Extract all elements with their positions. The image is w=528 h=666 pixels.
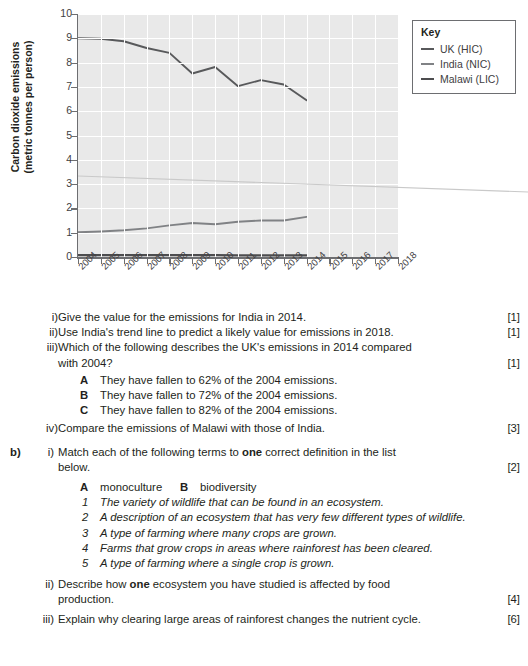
- horizontal-gridline: [78, 14, 398, 15]
- question-b-ii-text-line2: production.: [58, 592, 528, 607]
- emissions-line-chart: Carbon dioxide emissions (metric tonnes …: [0, 6, 528, 306]
- horizontal-gridline: [78, 208, 398, 209]
- definition-text: The variety of wildlife that can be foun…: [100, 496, 384, 508]
- legend-item: India (NIC): [421, 56, 515, 71]
- definition-text: A description of an ecosystem that has v…: [100, 511, 466, 523]
- question-a-iii-option-b[interactable]: B They have fallen to 72% of the 2004 em…: [0, 388, 528, 403]
- horizontal-gridline: [78, 184, 398, 185]
- y-tick-label: 5: [48, 129, 72, 141]
- question-a-iii-option-a[interactable]: A They have fallen to 62% of the 2004 em…: [0, 373, 528, 388]
- horizontal-gridline: [78, 63, 398, 64]
- legend-item-label: Malawi (LIC): [440, 73, 499, 85]
- option-letter: C: [80, 403, 88, 418]
- definition-item: 4 Farms that grow crops in areas where r…: [0, 541, 528, 556]
- horizontal-gridline: [78, 111, 398, 112]
- definition-text: A type of farming where many crops are g…: [100, 527, 337, 539]
- y-tick-label: 10: [48, 7, 72, 19]
- horizontal-gridline: [78, 38, 398, 39]
- y-tick-label: 0: [48, 250, 72, 262]
- y-axis-title-line2: (metric tonnes per person): [22, 40, 34, 173]
- question-a-iii-text-line1: Which of the following describes the UK'…: [58, 340, 528, 355]
- definition-item: 2 A description of an ecosystem that has…: [0, 510, 528, 525]
- legend-title: Key: [421, 26, 515, 38]
- legend-swatch-icon: [421, 78, 434, 80]
- question-b-i-line2: below. [2]: [0, 460, 528, 475]
- y-tick-mark: [71, 136, 78, 137]
- question-numeral: iii): [28, 612, 54, 627]
- y-tick-mark: [71, 87, 78, 88]
- question-b-i: b) i) Match each of the following terms …: [0, 445, 528, 460]
- question-a-iv: iv) Compare the emissions of Malawi with…: [0, 421, 528, 436]
- y-tick-label: 7: [48, 80, 72, 92]
- y-tick-mark: [71, 208, 78, 209]
- marks-badge: [2]: [507, 460, 520, 475]
- question-a-iii-text-line2: with 2004?: [58, 356, 528, 371]
- question-b-i-text-line2: below.: [58, 460, 528, 475]
- y-axis-title: Carbon dioxide emissions (metric tonnes …: [9, 12, 35, 202]
- legend-item: UK (HIC): [421, 41, 515, 56]
- horizontal-gridline: [78, 233, 398, 234]
- legend-items: UK (HIC)India (NIC)Malawi (LIC): [421, 41, 515, 86]
- y-tick-mark: [71, 111, 78, 112]
- plot-area: [78, 14, 398, 257]
- definition-item: 3 A type of farming where many crops are…: [0, 526, 528, 541]
- horizontal-gridline: [78, 160, 398, 161]
- y-tick-mark: [71, 38, 78, 39]
- question-a-i: i) Give the value for the emissions for …: [0, 310, 528, 325]
- term-text-b: biodiversity: [200, 480, 257, 495]
- y-tick-mark: [71, 160, 78, 161]
- term-text-a: monoculture: [100, 481, 162, 493]
- legend-item-label: UK (HIC): [440, 43, 483, 55]
- definition-text: A type of farming where a single crop is…: [100, 557, 334, 569]
- marks-badge: [1]: [507, 356, 520, 371]
- definition-number: 5: [82, 556, 88, 571]
- y-tick-mark: [71, 14, 78, 15]
- question-numeral: i): [36, 310, 58, 325]
- legend-swatch-icon: [421, 63, 434, 65]
- question-numeral: ii): [32, 577, 54, 592]
- horizontal-gridline: [78, 87, 398, 88]
- question-a-iii-option-c[interactable]: C They have fallen to 82% of the 2004 em…: [0, 403, 528, 418]
- y-tick-label: 6: [48, 104, 72, 116]
- y-tick-label: 8: [48, 56, 72, 68]
- legend-item-label: India (NIC): [440, 58, 491, 70]
- definition-number: 1: [82, 495, 88, 510]
- question-b-ii-line2: production. [4]: [0, 592, 528, 607]
- y-tick-label: 3: [48, 177, 72, 189]
- y-tick-mark: [71, 257, 78, 258]
- question-a-ii: ii) Use India's trend line to predict a …: [0, 325, 528, 340]
- y-tick-mark: [71, 233, 78, 234]
- option-letter: B: [80, 388, 88, 403]
- marks-badge: [3]: [507, 421, 520, 436]
- question-numeral: iii): [30, 340, 58, 355]
- question-b-i-text-line1: Match each of the following terms to one…: [58, 445, 528, 460]
- option-text: They have fallen to 82% of the 2004 emis…: [100, 403, 528, 418]
- term-letter-b: B: [180, 480, 188, 495]
- y-axis-title-line1: Carbon dioxide emissions: [9, 42, 21, 173]
- definition-number: 2: [82, 510, 88, 525]
- question-text-block: i) Give the value for the emissions for …: [0, 310, 528, 666]
- option-letter: A: [80, 373, 88, 388]
- question-a-iii-line2: with 2004? [1]: [0, 356, 528, 371]
- question-b-ii-text-line1: Describe how one ecosystem you have stud…: [58, 577, 528, 592]
- question-a-iii: iii) Which of the following describes th…: [0, 340, 528, 355]
- question-b-ii: ii) Describe how one ecosystem you have …: [0, 577, 528, 592]
- y-axis-tick-labels: 012345678910: [40, 6, 72, 266]
- y-tick-mark: [71, 184, 78, 185]
- emphasis-one: one: [242, 446, 262, 458]
- question-numeral: ii): [36, 325, 58, 340]
- term-list: A monoculture B biodiversity: [0, 480, 528, 495]
- question-a-i-text: Give the value for the emissions for Ind…: [58, 310, 528, 325]
- x-tick-label: 2018: [396, 249, 419, 272]
- y-tick-mark: [71, 63, 78, 64]
- chart-legend: Key UK (HIC)India (NIC)Malawi (LIC): [412, 20, 516, 94]
- y-tick-label: 9: [48, 31, 72, 43]
- definition-number: 4: [82, 541, 88, 556]
- term-letter-a: A: [80, 480, 88, 495]
- marks-badge: [6]: [507, 612, 520, 627]
- legend-swatch-icon: [421, 48, 434, 50]
- y-tick-label: 4: [48, 153, 72, 165]
- definition-text: Farms that grow crops in areas where rai…: [100, 542, 433, 554]
- definition-number: 3: [82, 526, 88, 541]
- vertical-gridline: [398, 14, 399, 257]
